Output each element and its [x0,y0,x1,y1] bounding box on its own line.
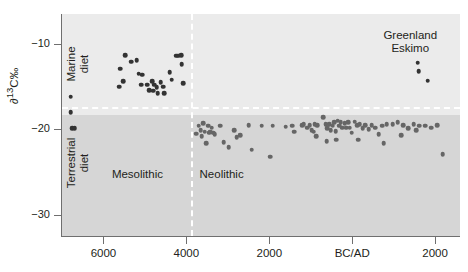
data-point [139,83,144,88]
x-axis-tick-label: 2000 [256,247,282,259]
data-point [246,123,251,128]
data-point [232,128,237,133]
data-point [181,81,186,86]
data-point [68,95,73,100]
y-axis-tick-label: −10 [24,37,50,49]
y-axis-tick-label: −20 [24,122,50,134]
y-axis-title-rest: C‰ [8,68,20,88]
data-point [314,134,319,139]
data-point [381,141,386,146]
annotation-line: Terrestrial [65,138,78,188]
data-point [118,66,123,71]
y-axis-tick [54,215,62,216]
data-point [221,140,226,145]
data-point [425,78,430,83]
data-point [366,127,371,132]
data-point [414,128,419,133]
data-point [328,128,333,133]
data-point [315,123,320,128]
y-axis-tick-label: −30 [24,208,50,220]
annotation-line: diet [77,138,90,188]
annotation-line: diet [77,46,90,81]
data-point [170,77,175,82]
y-axis-title-superscript: 13 [4,88,15,99]
data-point [270,124,275,129]
x-axis-tick-label: 4000 [174,247,200,259]
y-axis-tick [54,129,62,130]
data-point [333,129,338,134]
data-point [218,124,223,129]
x-axis-tick [352,237,353,244]
data-point [406,126,411,131]
y-axis-line [61,14,62,237]
data-point [384,122,389,127]
data-point [199,134,204,139]
data-point [226,145,231,150]
y-axis-title: ∂13C‰ [4,68,20,104]
data-point [399,133,404,138]
data-point [435,123,440,128]
data-point [129,60,134,65]
diet-boundary-line [62,107,460,109]
annotation-line: Eskimo [383,42,437,55]
data-point [417,124,422,129]
data-point [411,122,416,127]
data-point [154,85,159,90]
data-point [260,124,265,129]
data-point [179,53,184,58]
annotation-mesolithic: Mesolithic [112,168,163,181]
data-point [391,122,396,127]
annotation-neolithic: Neolithic [200,168,244,181]
data-point [123,53,128,58]
period-boundary-line [191,14,193,236]
data-point [73,126,78,131]
plot-area: MarinedietTerrestrialdietMesolithicNeoli… [62,14,460,236]
data-point [204,141,209,146]
data-point [376,132,381,137]
annotation-line: Marine [65,46,78,81]
data-point [234,135,239,140]
data-point [415,60,420,65]
data-point [334,137,339,142]
data-point [121,79,126,84]
data-point [321,115,326,120]
data-point [373,125,378,130]
data-point [416,69,421,74]
x-axis-tick-label: 6000 [91,247,117,259]
data-point [117,84,122,89]
annotation-line: Mesolithic [112,168,163,181]
data-point [250,147,255,152]
data-point [423,124,428,129]
data-point [155,91,160,96]
annotation-line: Neolithic [200,168,244,181]
data-point [268,154,273,159]
data-point [324,139,329,144]
chart-figure: MarinedietTerrestrialdietMesolithicNeoli… [0,0,468,272]
data-point [161,84,166,89]
x-axis-tick-label: 2000 [422,247,448,259]
x-axis-tick-label: BC/AD [335,247,370,259]
data-point [347,125,352,130]
data-point [401,123,406,128]
data-point [167,70,172,75]
x-axis-tick [435,237,436,244]
data-point [134,58,139,63]
data-point [209,125,214,130]
y-axis-tick [54,44,62,45]
x-axis-tick [269,237,270,244]
annotation-line: Greenland [383,29,437,42]
data-point [349,130,354,135]
data-point [290,124,295,129]
annotation-terrestrial-diet: Terrestrialdiet [65,138,90,188]
annotation-greenland-eskimo: GreenlandEskimo [383,29,437,55]
annotation-marine-diet: Marinediet [65,46,90,81]
data-point [212,132,217,137]
data-point [440,152,445,157]
data-point [140,72,145,77]
data-point [145,83,150,88]
data-point [162,91,167,96]
x-axis-line [61,236,460,237]
data-point [292,130,297,135]
data-point [68,110,73,115]
data-point [194,131,199,136]
